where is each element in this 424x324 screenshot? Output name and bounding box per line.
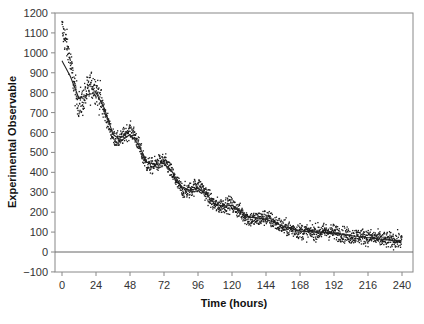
x-axis-title: Time (hours) — [201, 297, 268, 309]
x-tick-label: 0 — [59, 279, 65, 291]
y-tick-label: 1100 — [24, 27, 48, 39]
y-tick-label: −100 — [23, 266, 48, 278]
x-tick-label: 120 — [223, 279, 241, 291]
y-tick-label: 600 — [30, 127, 48, 139]
x-tick-label: 72 — [158, 279, 170, 291]
y-tick-label: 200 — [30, 206, 48, 218]
x-axis: 024487296120144168192216240 — [59, 272, 411, 291]
y-tick-label: 1000 — [24, 47, 48, 59]
x-tick-label: 192 — [325, 279, 343, 291]
y-tick-label: 500 — [30, 146, 48, 158]
y-tick-label: 800 — [30, 87, 48, 99]
y-axis-title: Experimental Observable — [6, 76, 18, 208]
y-tick-label: 700 — [30, 107, 48, 119]
x-tick-label: 24 — [90, 279, 102, 291]
y-tick-label: 300 — [30, 186, 48, 198]
y-tick-label: 0 — [42, 246, 48, 258]
y-tick-label: 1200 — [24, 7, 48, 19]
y-tick-label: 400 — [30, 166, 48, 178]
y-axis: −100010020030040050060070080090010001100… — [23, 7, 55, 278]
x-tick-label: 96 — [192, 279, 204, 291]
x-tick-label: 240 — [393, 279, 411, 291]
x-tick-label: 168 — [291, 279, 309, 291]
x-tick-label: 216 — [359, 279, 377, 291]
y-tick-label: 900 — [30, 67, 48, 79]
chart: −100010020030040050060070080090010001100… — [0, 0, 424, 324]
y-tick-label: 100 — [30, 226, 48, 238]
x-tick-label: 48 — [124, 279, 136, 291]
x-tick-label: 144 — [257, 279, 275, 291]
